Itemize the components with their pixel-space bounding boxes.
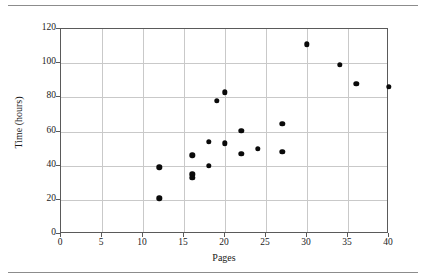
x-tick-label: 5 xyxy=(99,238,104,248)
y-axis-tick-labels: 020406080100120 xyxy=(28,28,56,233)
gridline-horizontal xyxy=(61,132,387,133)
y-tick-label: 20 xyxy=(47,194,57,204)
y-tick-mark xyxy=(56,96,60,97)
y-tick-label: 40 xyxy=(47,160,57,170)
scatter-point xyxy=(255,146,260,151)
y-tick-label: 120 xyxy=(42,23,56,33)
scatter-point xyxy=(222,141,227,146)
gridline-vertical xyxy=(143,29,144,232)
gridline-horizontal xyxy=(61,166,387,167)
scatter-point xyxy=(189,175,194,180)
gridline-vertical xyxy=(266,29,267,232)
y-axis-tick-marks xyxy=(56,28,60,233)
gridline-vertical xyxy=(307,29,308,232)
scatter-point xyxy=(386,84,391,89)
x-tick-label: 15 xyxy=(178,238,188,248)
gridline-vertical xyxy=(102,29,103,232)
y-tick-mark xyxy=(56,165,60,166)
scatter-point xyxy=(304,42,309,47)
scatter-point xyxy=(239,151,244,156)
scatter-point xyxy=(239,128,244,133)
x-axis-title: Pages xyxy=(60,252,388,263)
scatter-point xyxy=(157,165,162,170)
scatter-point xyxy=(206,139,211,144)
scatter-point xyxy=(189,153,194,158)
x-tick-label: 0 xyxy=(58,238,63,248)
y-tick-label: 100 xyxy=(42,57,56,67)
plot-area xyxy=(60,28,388,233)
x-tick-label: 10 xyxy=(137,238,147,248)
gridline-horizontal xyxy=(61,97,387,98)
scatter-point xyxy=(280,121,285,126)
x-tick-label: 30 xyxy=(301,238,311,248)
gridline-vertical xyxy=(348,29,349,232)
scatter-point xyxy=(337,62,342,67)
plot-wrapper: 020406080100120 0510152025303540 Pages T… xyxy=(0,0,426,280)
x-tick-label: 35 xyxy=(342,238,352,248)
scatter-point xyxy=(353,81,358,86)
x-tick-label: 40 xyxy=(383,238,393,248)
gridline-vertical xyxy=(225,29,226,232)
y-tick-mark xyxy=(56,131,60,132)
y-axis-title: Time (hours) xyxy=(13,78,24,168)
y-tick-mark xyxy=(56,62,60,63)
y-tick-label: 0 xyxy=(51,228,56,238)
y-tick-label: 60 xyxy=(47,126,57,136)
x-tick-label: 25 xyxy=(260,238,270,248)
x-tick-label: 20 xyxy=(219,238,229,248)
scatter-point xyxy=(280,149,285,154)
scatter-plot-figure: 020406080100120 0510152025303540 Pages T… xyxy=(0,0,426,280)
scatter-point xyxy=(222,90,227,95)
scatter-point xyxy=(214,98,219,103)
scatter-point xyxy=(206,163,211,168)
x-axis-tick-labels: 0510152025303540 xyxy=(60,238,388,252)
gridline-vertical xyxy=(184,29,185,232)
y-tick-label: 80 xyxy=(47,92,57,102)
gridline-horizontal xyxy=(61,200,387,201)
y-tick-mark xyxy=(56,28,60,29)
y-tick-mark xyxy=(56,199,60,200)
